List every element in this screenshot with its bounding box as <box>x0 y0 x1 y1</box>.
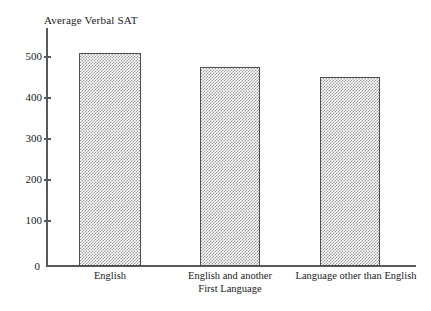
y-tick-mark-500 <box>44 56 51 58</box>
y-tick-mark-400 <box>44 97 51 99</box>
x-category-label-language-other-than-english: Language other than English <box>283 270 429 282</box>
x-axis-title: First Language <box>160 283 300 294</box>
x-category-label-english-and-another: English and another <box>160 270 300 282</box>
y-tick-mark-300 <box>44 138 51 140</box>
bar-english <box>79 53 141 266</box>
y-tick-mark-200 <box>44 179 51 181</box>
y-tick-mark-100 <box>44 220 51 222</box>
bar-chart: Average Verbal SAT 500 400 300 200 100 0… <box>0 0 431 311</box>
y-tick-label-100: 100 <box>26 215 43 226</box>
y-axis-line <box>46 28 48 267</box>
chart-title: Average Verbal SAT <box>44 14 138 26</box>
x-category-label-english: English <box>60 270 160 282</box>
y-tick-label-400: 400 <box>26 92 43 103</box>
bar-language-other-than-english <box>320 77 380 266</box>
y-tick-label-0: 0 <box>35 261 41 272</box>
y-tick-label-500: 500 <box>26 51 43 62</box>
bar-english-and-another <box>200 67 260 266</box>
y-tick-label-300: 300 <box>26 133 43 144</box>
y-tick-label-200: 200 <box>26 174 43 185</box>
